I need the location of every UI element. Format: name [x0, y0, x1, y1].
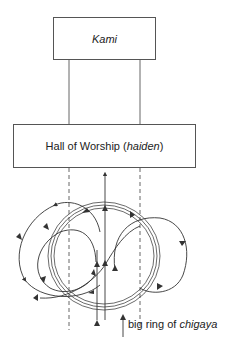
- hall-label-suffix: ): [160, 140, 164, 152]
- kami-box: Kami: [53, 17, 156, 60]
- hall-label: Hall of Worship (haiden): [46, 140, 164, 152]
- ring-caption-italic: chigaya: [179, 318, 217, 330]
- hall-label-italic: haiden: [127, 140, 160, 152]
- ring-caption: big ring of chigaya: [128, 318, 217, 330]
- ring-caption-prefix: big ring of: [128, 318, 179, 330]
- arrowheads: [16, 205, 186, 326]
- hall-label-prefix: Hall of Worship (: [46, 140, 127, 152]
- big-ring: [48, 202, 160, 310]
- hall-of-worship-box: Hall of Worship (haiden): [13, 124, 196, 168]
- kami-label: Kami: [92, 33, 117, 45]
- path-loops: [19, 174, 187, 320]
